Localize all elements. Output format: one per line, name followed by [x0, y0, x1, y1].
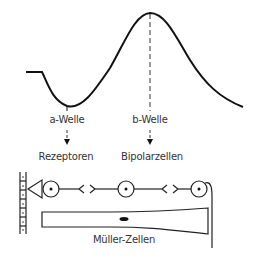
ladder-dots — [22, 176, 24, 231]
bipolar-cells-label: Bipolarzellen — [121, 151, 183, 162]
b-wave-arrow — [147, 130, 153, 145]
mueller-nucleus — [120, 217, 129, 221]
mueller-cells-label: Müller-Zellen — [93, 234, 155, 245]
mueller-cell-body — [42, 208, 208, 234]
erg-waveform-curve — [26, 13, 243, 107]
b-wave-label: b-Welle — [132, 114, 167, 125]
erg-diagram — [0, 0, 255, 258]
receptor-ladder — [20, 172, 26, 234]
receptor-triangle — [28, 180, 42, 198]
receptors-label: Rezeptoren — [39, 151, 94, 162]
a-wave-arrow — [64, 130, 70, 145]
a-wave-label: a-Welle — [49, 114, 84, 125]
